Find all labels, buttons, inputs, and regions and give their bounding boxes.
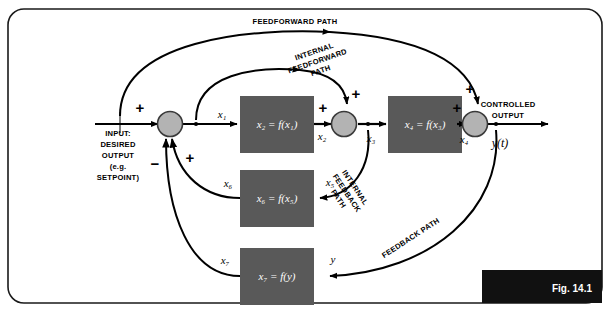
signal-label-x3: x₃ <box>366 132 376 144</box>
branch-node-y <box>494 122 498 126</box>
input-label-line-2: DESIRED <box>100 140 135 149</box>
figure-number-label: Fig. 14.1 <box>552 283 592 294</box>
figure-frame: x₂ = f(x₁) x₄ = f(x₃) x₆ = f(x₅) x₇ = f(… <box>0 0 612 314</box>
sign-j3-left-plus: + <box>453 99 462 116</box>
signal-label-x7: x₇ <box>220 254 230 266</box>
sign-j2-top-plus: + <box>352 85 361 102</box>
feedforward-path-label: FEEDFORWARD PATH <box>253 17 338 26</box>
input-label-line-5: SETPOINT) <box>97 173 140 182</box>
signal-label-x6: x₆ <box>223 177 233 189</box>
signal-label-x1: x₁ <box>217 108 227 120</box>
summing-junction-1 <box>158 112 183 137</box>
block-x2-label: x₂ = f(x₁) <box>256 118 298 131</box>
block-x4-label: x₄ = f(x₃) <box>404 118 446 131</box>
summing-junction-2 <box>332 112 357 137</box>
branch-node-x3 <box>366 122 370 126</box>
sign-main-feedback-minus: − <box>151 155 160 172</box>
sign-internal-feedback-plus: + <box>186 149 195 166</box>
branch-node-x1 <box>194 122 198 126</box>
block-x7-label: x₇ = f(y) <box>258 270 296 283</box>
sign-j2-left-plus: + <box>319 99 328 116</box>
input-label-line-4: (e.g. <box>110 162 127 171</box>
block-diagram-canvas: x₂ = f(x₁) x₄ = f(x₃) x₆ = f(x₅) x₇ = f(… <box>0 0 612 314</box>
output-label-line-1: CONTROLLED <box>481 100 536 109</box>
output-label-line-2: OUTPUT <box>492 111 525 120</box>
input-label-line-1: INPUT: <box>105 129 131 138</box>
input-label-line-3: OUTPUT <box>102 151 135 160</box>
sign-j3-top-plus: + <box>466 80 475 97</box>
signal-label-x4: x₄ <box>459 133 469 145</box>
block-x6-label: x₆ = f(x₅) <box>256 192 298 205</box>
signal-label-y: y <box>330 253 336 265</box>
signal-label-x2: x₂ <box>317 130 327 142</box>
sign-input-plus: + <box>136 99 145 116</box>
output-signal-label: y(t) <box>491 136 509 150</box>
